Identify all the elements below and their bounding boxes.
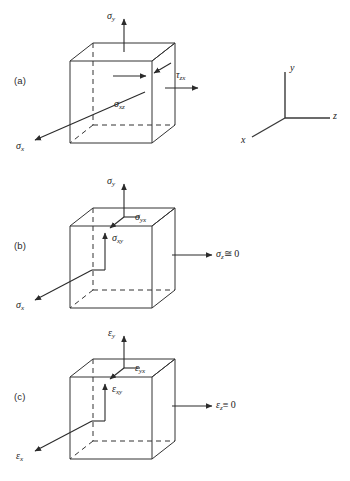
coordinate-axes-triad (252, 72, 330, 137)
epsilon-x-subscript-c: x (20, 455, 23, 463)
sigma-x-label-b: σx (16, 299, 24, 312)
sigma-y-label-a: σy (107, 10, 115, 23)
sigma-y-label-b: σy (107, 175, 115, 188)
tau-zx-face-arrow-a (154, 63, 171, 73)
panel-label-a: (a) (14, 75, 26, 86)
epsilon-y-subscript-c: y (112, 332, 115, 340)
epsilon-xy-arrow-c (92, 384, 105, 421)
epsilon-z-label-c: εz≡ 0 (216, 399, 236, 412)
panel-c-cube (70, 359, 175, 459)
panel-a-cube (70, 43, 175, 143)
sigma-y-subscript-b: y (112, 180, 115, 188)
axis-label-z: z (333, 110, 337, 121)
tau-zx-label-a: τzx (176, 69, 185, 82)
epsilon-z-value-c: ≡ 0 (223, 399, 236, 410)
epsilon-xy-subscript-c: xy (116, 388, 122, 396)
epsilon-x-arrow-c (35, 421, 92, 451)
sigma-x-subscript-b: x (21, 304, 24, 312)
epsilon-yx-subscript-c: yx (139, 367, 145, 375)
sigma-y-subscript-a: y (112, 15, 115, 23)
sigma-xy-subscript-b: xy (117, 237, 123, 245)
panel-label-b: (b) (14, 240, 26, 251)
sigma-xz-label-a: σxz (114, 98, 125, 111)
sigma-x-arrow-b (35, 270, 92, 300)
sigma-yx-label-b: σyx (135, 211, 146, 224)
sigma-z-value-b: ≅ 0 (224, 248, 240, 259)
sigma-x-arrow-a (35, 92, 145, 140)
sigma-xy-label-b: σxy (112, 232, 123, 245)
epsilon-y-label-c: εy (108, 327, 115, 340)
sigma-xy-arrow-b (92, 233, 105, 270)
sigma-xz-subscript-a: xz (119, 103, 125, 111)
panel-b-cube (70, 208, 175, 308)
panel-label-c: (c) (14, 391, 26, 402)
stress-strain-figure (0, 0, 350, 481)
sigma-x-subscript-a: x (21, 145, 24, 153)
axis-label-x: x (241, 134, 245, 145)
sigma-x-label-a: σx (16, 140, 24, 153)
sigma-z-label-b: σz≅ 0 (216, 248, 239, 261)
tau-zx-subscript-a: zx (180, 74, 186, 82)
axis-label-y: y (290, 62, 294, 73)
epsilon-xy-label-c: εxy (112, 383, 122, 396)
epsilon-x-label-c: εx (16, 450, 23, 463)
sigma-yx-subscript-b: yx (140, 216, 146, 224)
epsilon-yx-label-c: εyx (135, 362, 145, 375)
